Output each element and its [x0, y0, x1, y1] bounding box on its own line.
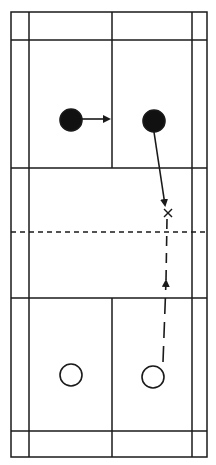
movement-paths	[82, 119, 167, 362]
shuttle-path	[166, 219, 167, 281]
player-open-icon	[142, 366, 164, 388]
badminton-court-diagram	[0, 0, 216, 465]
target-marks	[164, 209, 172, 217]
court-lines	[11, 12, 207, 457]
player-filled-icon	[143, 110, 165, 132]
movement-arrow	[163, 281, 166, 362]
cross-mark-icon	[164, 209, 172, 217]
court-boundary	[11, 12, 207, 457]
player-filled-icon	[60, 109, 82, 131]
player-open-icon	[60, 364, 82, 386]
